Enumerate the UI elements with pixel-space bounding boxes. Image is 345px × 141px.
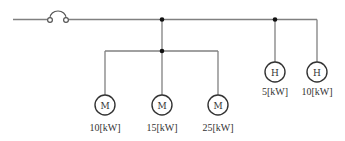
motor-load-1: M 10[kW] [89,95,120,133]
junction-dot [273,17,278,22]
heater-rating: 10[kW] [301,86,332,97]
junction-dot [160,17,165,22]
heater-feeder [275,20,317,63]
motor-feeder [105,20,218,96]
svg-text:M: M [157,101,166,111]
heater-load-1: H 5[kW] [262,62,288,97]
svg-text:H: H [313,68,321,78]
heater-rating: 5[kW] [262,86,288,97]
junction-dot [160,49,165,54]
motor-rating: 15[kW] [146,122,177,133]
svg-text:M: M [100,101,109,111]
motor-rating: 25[kW] [202,122,233,133]
svg-text:M: M [213,101,222,111]
motor-load-2: M 15[kW] [146,95,177,133]
svg-text:H: H [271,68,279,78]
motor-rating: 10[kW] [89,122,120,133]
heater-load-2: H 10[kW] [301,62,332,97]
circuit-diagram: M 10[kW] M 15[kW] M 25[kW] H 5[kW] H 10[… [0,0,345,141]
motor-load-3: M 25[kW] [202,95,233,133]
fuse-icon [48,11,69,22]
